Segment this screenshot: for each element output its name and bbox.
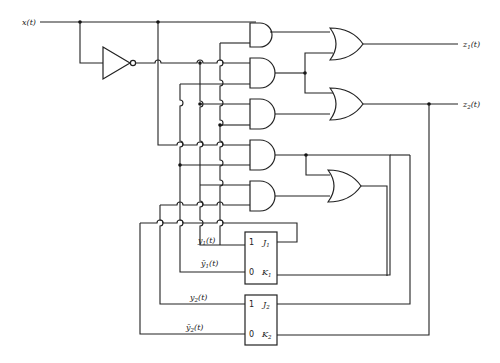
and-gate-1 (250, 23, 272, 47)
svg-text:1: 1 (249, 300, 254, 309)
and-gate-3 (250, 99, 275, 129)
output-label-z2: z2(t) (462, 100, 480, 110)
label-y2-bar: ȳ2(t) (185, 323, 204, 333)
wire-x-bar (136, 60, 250, 65)
or-gate-2 (330, 88, 363, 120)
bus-y1 (220, 43, 223, 245)
label-y1-bar: ȳ1(t) (200, 259, 219, 269)
inverter-gate (103, 47, 136, 79)
svg-text:1: 1 (249, 238, 254, 247)
bus-x-bar (200, 63, 245, 245)
output-label-z1: z1(t) (462, 40, 480, 50)
flip-flop-2: 1 0 J2 K2 (245, 295, 277, 345)
svg-text:0: 0 (249, 330, 254, 339)
or-gate-3 (328, 170, 361, 202)
label-y2: y2(t) (189, 293, 208, 303)
svg-text:0: 0 (249, 268, 254, 277)
flip-flop-1: 1 0 J1 K1 (245, 232, 277, 284)
input-wire-x (40, 20, 256, 63)
bus-y2 (160, 205, 245, 304)
or-gate-1 (330, 28, 363, 60)
and-gate-2 (250, 58, 275, 88)
and-gate-4 (250, 140, 275, 170)
circuit-diagram: x(t) (0, 0, 500, 363)
input-label-x: x(t) (22, 18, 36, 27)
and-gate-5 (250, 181, 275, 211)
label-y1: y1(t) (197, 236, 216, 246)
